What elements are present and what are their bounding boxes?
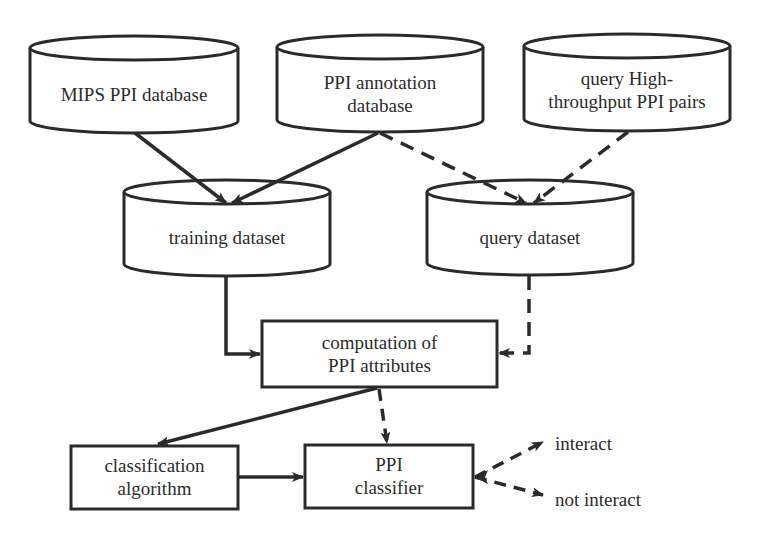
query-dataset-label: query dataset [427,226,633,249]
edge-computation-to-classification [158,388,377,444]
edge-computation-to-classifier [379,389,387,443]
computation-label: computation of PPI attributes [262,331,497,377]
training-dataset-label: training dataset [124,226,330,249]
annotation-db-label: PPI annotation database [277,71,483,117]
edge-training-to-computation [226,277,260,354]
ppi-classifier-label: PPI classifier [305,453,473,499]
edge-query-to-computation [499,276,529,353]
output-not-interact-label: not interact [555,488,641,511]
output-interact-label: interact [555,432,612,455]
mips-db-label: MIPS PPI database [30,83,238,106]
highthroughput-db-label: query High- throughput PPI pairs [524,67,730,113]
classification-algorithm-label: classification algorithm [71,454,238,500]
